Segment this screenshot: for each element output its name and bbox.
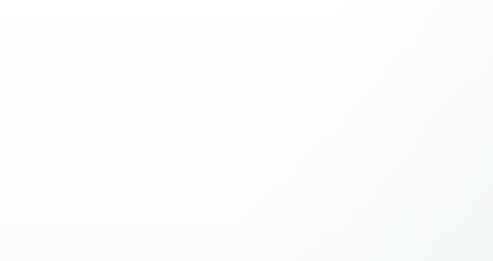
slice-label-columbia-name: Columbia xyxy=(112,48,174,60)
figure-page: FIGURE 5.3 Cocaine Manufacturing in Boli… xyxy=(0,0,493,261)
slice-label-bolivia-value: 3% xyxy=(313,57,361,69)
slice-label-columbia: Columbia 85% xyxy=(112,48,174,72)
slice-label-bolivia: Bolivia 3% xyxy=(313,45,361,69)
chart-plot-area: Columbia 85% Bolivia 3% Peru 12% xyxy=(0,34,493,249)
figure-number-label: FIGURE 5.3 xyxy=(13,2,121,26)
slice-label-peru-name: Peru xyxy=(349,96,391,108)
slice-label-bolivia-name: Bolivia xyxy=(313,45,361,57)
slice-label-peru-value: 12% xyxy=(349,108,391,120)
slice-label-columbia-value: 85% xyxy=(112,60,174,72)
footer-divider-rule-shadow xyxy=(14,250,482,251)
pie-chart xyxy=(0,34,493,249)
figure-header: FIGURE 5.3 Cocaine Manufacturing in Boli… xyxy=(0,0,493,34)
slice-label-peru: Peru 12% xyxy=(349,96,391,120)
